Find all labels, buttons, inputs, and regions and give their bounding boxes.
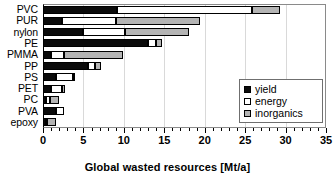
legend-swatch-yield-icon	[244, 86, 251, 93]
bar-segment-pmma-yield	[43, 51, 51, 59]
bar-segment-pvc-inorganics	[252, 6, 279, 14]
bar-segment-pva-energy	[56, 107, 64, 115]
bar-segment-pe-inorganics	[156, 39, 162, 47]
x-tick-major	[83, 128, 84, 133]
bar-segment-pmma-energy	[51, 51, 64, 59]
bar-pur	[43, 17, 335, 25]
x-tick-minor	[302, 128, 303, 131]
x-tick-minor	[92, 128, 93, 131]
bar-segment-pp-yield	[43, 62, 88, 70]
legend-swatch-energy-icon	[244, 98, 251, 105]
x-tick-minor	[253, 128, 254, 131]
bar-segment-pp-inorganics	[95, 62, 101, 70]
x-tick-minor	[51, 128, 52, 131]
x-tick-label-25: 25	[239, 134, 251, 146]
x-tick-minor	[67, 128, 68, 131]
bar-segment-pe-energy	[148, 39, 156, 47]
legend-entry-inorganics: inorganics	[244, 107, 318, 119]
x-tick-label-20: 20	[199, 134, 211, 146]
x-tick-minor	[180, 128, 181, 131]
x-tick-minor	[229, 128, 230, 131]
x-tick-minor	[318, 128, 319, 131]
bar-segment-pet-yield	[43, 85, 51, 93]
x-tick-minor	[75, 128, 76, 131]
x-tick-minor	[132, 128, 133, 131]
bar-segment-epoxy-inorganics	[47, 118, 56, 126]
legend-label-inorganics: inorganics	[255, 107, 303, 119]
bar-segment-pet-inorganics	[62, 85, 65, 93]
x-tick-minor	[261, 128, 262, 131]
x-tick-minor	[197, 128, 198, 131]
x-tick-minor	[59, 128, 60, 131]
chart-figure: PVCPURnylonPEPMMAPPPSPETPCPVAepoxy 05101…	[0, 0, 335, 182]
bar-segment-ps-energy	[56, 73, 73, 81]
bar-segment-nylon-yield	[43, 28, 83, 36]
x-tick-label-35: 35	[320, 134, 332, 146]
bar-pvc	[43, 6, 335, 14]
x-tick-minor	[172, 128, 173, 131]
x-tick-minor	[213, 128, 214, 131]
x-tick-minor	[221, 128, 222, 131]
bar-segment-pvc-yield	[43, 6, 117, 14]
bar-segment-pet-energy	[51, 85, 62, 93]
bar-segment-nylon-inorganics	[125, 28, 190, 36]
y-axis-label-pc: PC	[24, 94, 38, 105]
x-tick-major	[124, 128, 125, 133]
y-axis-label-pp: PP	[24, 61, 38, 72]
x-tick-minor	[116, 128, 117, 131]
bar-segment-ps-inorganics	[73, 73, 75, 81]
x-tick-minor	[140, 128, 141, 131]
legend-label-yield: yield	[255, 83, 277, 95]
y-axis-label-pur: PUR	[16, 15, 38, 26]
bar-nylon	[43, 28, 335, 36]
bar-segment-pmma-inorganics	[64, 51, 123, 59]
legend-entry-yield: yield	[244, 83, 318, 95]
y-axis-label-epoxy: epoxy	[10, 117, 38, 128]
bar-pe	[43, 39, 335, 47]
x-tick-major	[43, 128, 44, 133]
legend-entry-energy: energy	[244, 95, 318, 107]
bar-segment-pc-inorganics	[50, 96, 59, 104]
x-tick-minor	[269, 128, 270, 131]
x-tick-minor	[148, 128, 149, 131]
bar-segment-pur-energy	[62, 17, 115, 25]
x-tick-minor	[294, 128, 295, 131]
bar-segment-pvc-energy	[117, 6, 252, 14]
bar-segment-pe-yield	[43, 39, 148, 47]
bar-segment-pur-inorganics	[116, 17, 200, 25]
x-tick-label-5: 5	[80, 134, 86, 146]
x-tick-major	[164, 128, 165, 133]
x-tick-major	[205, 128, 206, 133]
x-tick-minor	[189, 128, 190, 131]
x-tick-label-30: 30	[279, 134, 291, 146]
y-axis-labels: PVCPURnylonPEPMMAPPPSPETPCPVAepoxy	[0, 4, 41, 128]
bar-pmma	[43, 51, 335, 59]
x-tick-minor	[310, 128, 311, 131]
y-axis-label-pva: PVA	[18, 106, 38, 117]
x-tick-label-15: 15	[158, 134, 170, 146]
x-tick-minor	[277, 128, 278, 131]
bar-segment-nylon-energy	[83, 28, 124, 36]
x-axis-title: Global wasted resources [Mt/a]	[0, 161, 335, 173]
x-tick-minor	[156, 128, 157, 131]
x-tick-major	[245, 128, 246, 133]
x-tick-label-10: 10	[118, 134, 130, 146]
bar-segment-pur-yield	[43, 17, 62, 25]
legend-label-energy: energy	[255, 95, 287, 107]
x-tick-minor	[108, 128, 109, 131]
x-tick-minor	[100, 128, 101, 131]
x-tick-major	[326, 128, 327, 133]
x-tick-major	[286, 128, 287, 133]
legend-swatch-inorganics-icon	[244, 110, 251, 117]
x-tick-minor	[237, 128, 238, 131]
bar-segment-pva-yield	[43, 107, 56, 115]
bar-segment-ps-yield	[43, 73, 56, 81]
y-axis-label-pmma: PMMA	[7, 49, 38, 60]
x-tick-label-0: 0	[40, 134, 46, 146]
bar-pp	[43, 62, 335, 70]
chart-legend: yield energy inorganics	[239, 79, 323, 123]
